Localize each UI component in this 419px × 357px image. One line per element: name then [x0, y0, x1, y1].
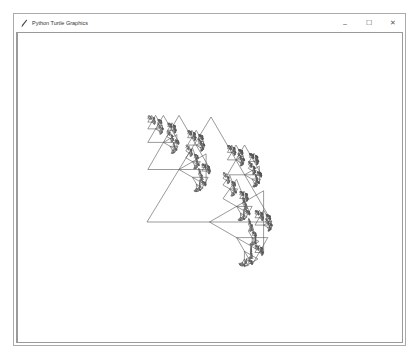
fractal-drawing [0, 0, 419, 357]
